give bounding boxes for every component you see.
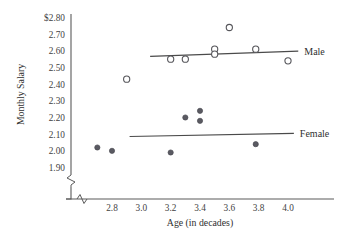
series-label-female: Female — [300, 128, 330, 139]
scatter-plot-figure: $2.802.702.602.502.402.302.202.102.001.9… — [0, 0, 355, 242]
trend-line-female — [130, 133, 294, 136]
data-point-male-5 — [226, 24, 232, 30]
y-tick-label-3: 2.50 — [49, 63, 66, 73]
data-point-female-3 — [183, 115, 188, 120]
x-tick-label-6: 4.0 — [282, 203, 294, 213]
x-tick-label-3: 3.4 — [194, 203, 206, 213]
y-tick-label-9: 1.90 — [49, 163, 66, 173]
y-tick-label-5: 2.30 — [49, 96, 66, 106]
series-label-male: Male — [304, 46, 325, 57]
y-tick-label-4: 2.40 — [49, 80, 66, 90]
data-point-male-0 — [124, 76, 130, 82]
data-point-male-4 — [212, 51, 218, 57]
axis-corner-connector — [66, 187, 71, 199]
x-tick-label-1: 3.0 — [136, 203, 148, 213]
data-point-female-0 — [95, 145, 100, 150]
trend-line-male — [150, 51, 298, 56]
data-point-female-4 — [197, 108, 202, 113]
data-point-male-6 — [253, 46, 259, 52]
data-point-female-1 — [109, 148, 114, 153]
y-tick-label-7: 2.10 — [49, 130, 66, 140]
y-axis-title: Monthly Salary — [15, 64, 26, 125]
x-tick-label-4: 3.6 — [224, 203, 236, 213]
y-tick-label-6: 2.20 — [49, 113, 66, 123]
data-point-female-6 — [253, 142, 258, 147]
y-axis-break-mark — [67, 175, 75, 187]
data-point-male-2 — [182, 56, 188, 62]
x-tick-label-2: 3.2 — [165, 203, 177, 213]
y-tick-label-2: 2.60 — [49, 46, 66, 56]
data-point-female-5 — [197, 118, 202, 123]
x-tick-label-5: 3.8 — [253, 203, 265, 213]
y-tick-label-1: 2.70 — [49, 30, 66, 40]
y-tick-label-0: $2.80 — [44, 13, 65, 23]
data-point-male-7 — [285, 58, 291, 64]
plot-canvas: $2.802.702.602.502.402.302.202.102.001.9… — [0, 0, 355, 242]
x-tick-label-0: 2.8 — [106, 203, 118, 213]
data-point-male-1 — [168, 56, 174, 62]
y-tick-label-8: 2.00 — [49, 146, 66, 156]
x-axis-title: Age (in decades) — [167, 217, 233, 229]
data-point-female-2 — [168, 150, 173, 155]
